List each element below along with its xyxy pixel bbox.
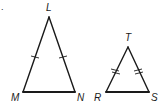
- isosceles-triangles-diagram: . L M N T R S: [0, 0, 163, 111]
- vertex-label-m: M: [11, 92, 20, 103]
- vertex-label-l: L: [46, 2, 52, 13]
- double-tick-mark-ts-2: [135, 72, 143, 74]
- vertex-label-r: R: [94, 92, 101, 103]
- side-ln: [49, 17, 75, 92]
- triangle-trs: T R S: [94, 32, 158, 103]
- item-marker: .: [1, 2, 4, 12]
- vertex-label-s: S: [151, 92, 158, 103]
- vertex-label-n: N: [77, 92, 85, 103]
- triangle-lmn: L M N: [11, 2, 85, 103]
- side-lm: [23, 17, 49, 92]
- side-tr: [106, 47, 128, 92]
- vertex-label-t: T: [125, 32, 132, 43]
